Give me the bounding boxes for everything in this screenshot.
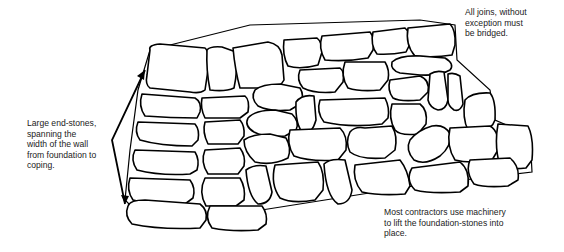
stone-wall-drawing (0, 0, 564, 252)
